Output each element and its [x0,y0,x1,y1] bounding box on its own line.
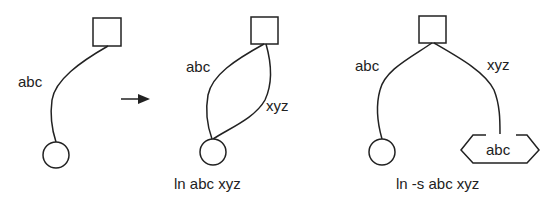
link-label-abc: abc [355,57,380,74]
symlink-target-text: abc [486,141,511,158]
directory-node [93,18,121,46]
panel-before: abc [18,18,121,168]
link-label-abc: abc [18,73,43,90]
caption-symbolic-link: ln -s abc xyz [396,175,479,192]
inode-node [43,142,69,168]
inode-node [200,139,226,165]
directory-node [419,16,446,43]
panel-symbolic-link: abc abc xyz ln -s abc xyz [355,16,539,192]
link-label-xyz: xyz [266,97,289,114]
inode-node [369,139,395,165]
link-label-abc: abc [186,58,211,75]
directory-node [251,17,278,44]
link-label-xyz: xyz [487,56,510,73]
link-edge-xyz [213,44,270,139]
link-diagram: abc abc xyz ln abc xyz abc abc xyz ln -s… [0,0,553,204]
caption-hard-link: ln abc xyz [174,175,241,192]
link-edge-abc [51,46,108,142]
link-edge-abc [207,44,264,139]
panel-hard-link: abc xyz ln abc xyz [174,17,289,192]
transition-arrow-icon [121,94,150,104]
link-edge-abc [377,43,432,139]
